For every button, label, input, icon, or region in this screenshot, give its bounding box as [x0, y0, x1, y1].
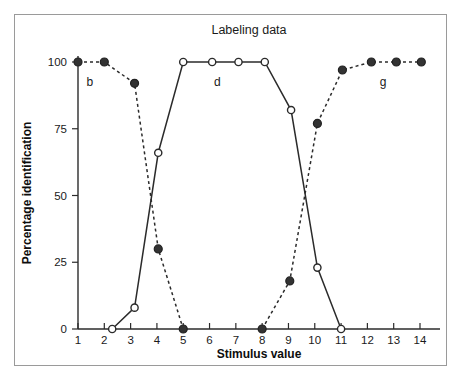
y-tick-label: 100 [48, 56, 67, 68]
series-marker-b [154, 245, 162, 253]
series-marker-b [74, 58, 82, 66]
y-axis-ticks: 0255075100 [48, 56, 78, 335]
y-tick-label: 50 [54, 190, 67, 202]
x-tick-label: 14 [414, 334, 427, 346]
x-tick-label: 3 [127, 334, 133, 346]
series-markers [74, 58, 425, 333]
series-marker-d [287, 106, 294, 113]
x-tick-label: 10 [308, 334, 321, 346]
series-marker-d [209, 58, 216, 65]
series-marker-g [417, 58, 425, 66]
x-tick-label: 7 [233, 334, 239, 346]
series-marker-g [338, 66, 346, 74]
x-tick-label: 2 [101, 334, 107, 346]
series-marker-g [286, 277, 294, 285]
axes-group [78, 56, 440, 329]
x-tick-label: 1 [75, 334, 81, 346]
x-tick-label: 13 [387, 334, 400, 346]
series-marker-d [235, 58, 242, 65]
x-tick-label: 12 [361, 334, 374, 346]
series-marker-b [179, 325, 187, 333]
series-marker-g [367, 58, 375, 66]
series-lines [78, 62, 421, 329]
x-tick-label: 4 [154, 334, 161, 346]
chart-title: Labeling data [211, 23, 286, 37]
y-tick-label: 0 [61, 323, 67, 335]
series-marker-d [131, 304, 138, 311]
series-marker-d [155, 149, 162, 156]
x-tick-label: 9 [285, 334, 291, 346]
x-tick-label: 5 [180, 334, 186, 346]
series-marker-d [314, 264, 321, 271]
series-marker-g [392, 58, 400, 66]
chart-title-group: Labeling data [211, 23, 286, 37]
y-tick-label: 25 [54, 256, 67, 268]
series-marker-d [109, 325, 116, 332]
x-tick-label: 6 [206, 334, 212, 346]
series-annotation-d: d [214, 75, 221, 89]
labeling-data-chart: Labeling data 0255075100 123456789101112… [0, 0, 461, 378]
x-axis-title: Stimulus value [217, 347, 302, 361]
series-marker-d [337, 325, 344, 332]
series-annotation-b: b [86, 75, 93, 89]
x-axis-ticks: 1234567891011121314 [75, 323, 427, 346]
x-tick-label: 11 [335, 334, 347, 346]
series-marker-g [313, 119, 321, 127]
series-marker-d [180, 58, 187, 65]
y-tick-label: 75 [54, 123, 67, 135]
series-line-b [78, 62, 183, 329]
series-marker-b [100, 58, 108, 66]
figure-root: Labeling data 0255075100 123456789101112… [0, 0, 461, 378]
x-tick-label: 8 [259, 334, 265, 346]
y-axis-title: Percentage identification [20, 122, 34, 265]
series-marker-b [131, 79, 139, 87]
series-annotation-g: g [380, 75, 387, 89]
series-marker-g [258, 325, 266, 333]
series-marker-d [261, 58, 268, 65]
series-line-d [112, 62, 341, 329]
